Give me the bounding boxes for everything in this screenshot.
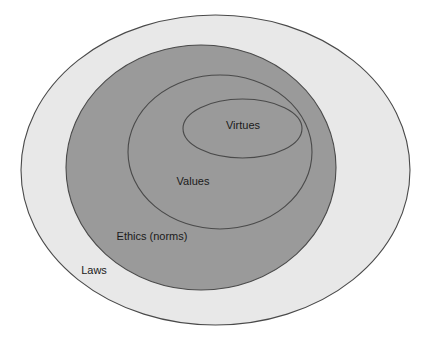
ring-label-virtues: Virtues (226, 119, 261, 131)
ring-label-values: Values (177, 175, 210, 187)
concentric-ring-diagram: Laws Ethics (norms) Values Virtues (0, 0, 423, 346)
diagram-svg: Laws Ethics (norms) Values Virtues (0, 0, 423, 346)
ring-label-ethics-norms: Ethics (norms) (117, 230, 188, 242)
ring-label-laws: Laws (81, 264, 107, 276)
